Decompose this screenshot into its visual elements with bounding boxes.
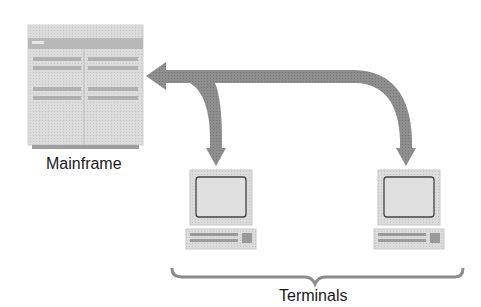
- mainframe-label: Mainframe: [46, 155, 122, 173]
- terminals-label: Terminals: [279, 287, 347, 305]
- data-flow-arrow: [146, 62, 416, 166]
- diagram-canvas: [0, 0, 481, 307]
- mainframe-icon: [28, 25, 143, 149]
- terminal-icon: [374, 170, 444, 249]
- terminal-icon: [186, 170, 256, 249]
- terminals-brace: [172, 268, 463, 284]
